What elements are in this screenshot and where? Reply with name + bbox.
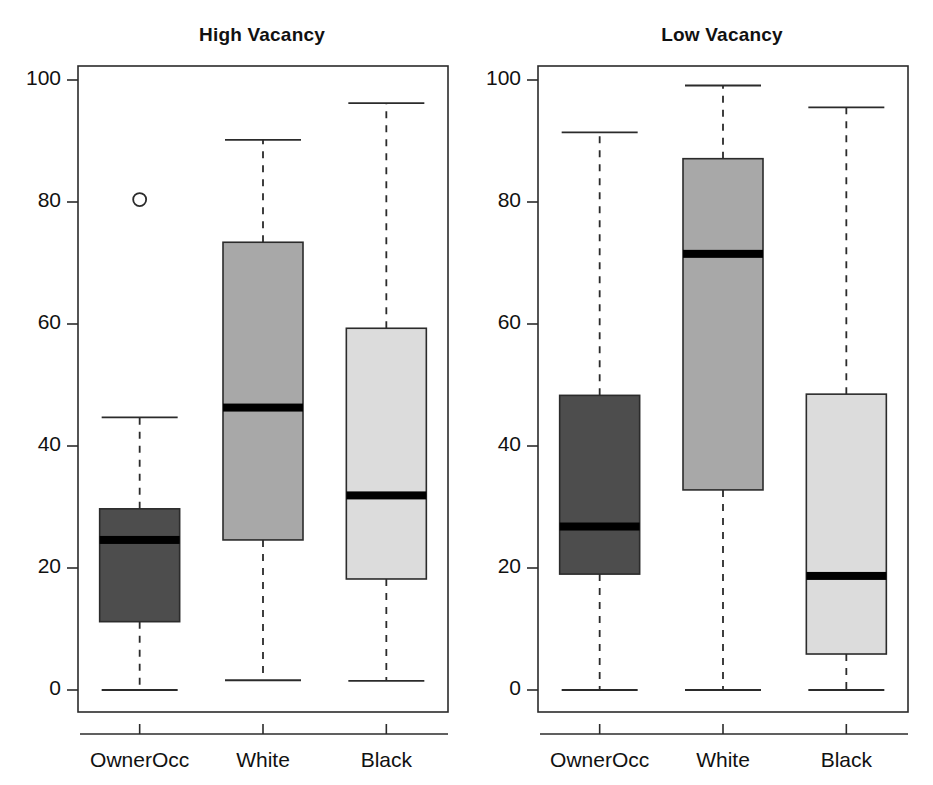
x-category-label: Black: [301, 748, 471, 772]
box-rect: [346, 328, 426, 579]
y-tick-label: 60: [438, 310, 521, 334]
median-bar: [100, 536, 180, 544]
plot-frame-2: [538, 66, 908, 712]
boxplot-box-white: [223, 140, 303, 680]
box-rect: [560, 395, 640, 574]
outlier-point: [133, 193, 146, 206]
y-tick-label: 20: [0, 554, 61, 578]
y-tick-label: 100: [0, 66, 61, 90]
y-tick-label: 100: [438, 66, 521, 90]
y-tick-label: 40: [438, 432, 521, 456]
boxplot-box-black: [806, 107, 886, 690]
y-tick-label: 60: [0, 310, 61, 334]
y-tick-label: 80: [0, 188, 61, 212]
x-category-label: Black: [761, 748, 931, 772]
box-rect: [683, 159, 763, 490]
boxplot-box-black: [346, 103, 426, 681]
boxplot-box-ownerocc: [100, 193, 180, 690]
median-bar: [223, 404, 303, 412]
plot-frame-1: [78, 66, 448, 712]
plot-area-1: [0, 0, 933, 785]
y-tick-label: 20: [438, 554, 521, 578]
panel-title-1: High Vacancy: [112, 24, 412, 46]
box-rect: [223, 242, 303, 540]
box-rect: [100, 509, 180, 622]
boxplot-box-ownerocc: [560, 132, 640, 690]
median-bar: [346, 491, 426, 499]
y-tick-label: 0: [0, 676, 61, 700]
plot-area-2: [0, 0, 933, 785]
boxplot-figure: High Vacancy020406080100OwnerOccWhiteBla…: [0, 0, 933, 785]
panel-title-2: Low Vacancy: [572, 24, 872, 46]
y-tick-label: 40: [0, 432, 61, 456]
median-bar: [560, 523, 640, 531]
y-tick-label: 80: [438, 188, 521, 212]
box-rect: [806, 394, 886, 654]
median-bar: [683, 250, 763, 258]
y-tick-label: 0: [438, 676, 521, 700]
median-bar: [806, 572, 886, 580]
boxplot-box-white: [683, 85, 763, 690]
